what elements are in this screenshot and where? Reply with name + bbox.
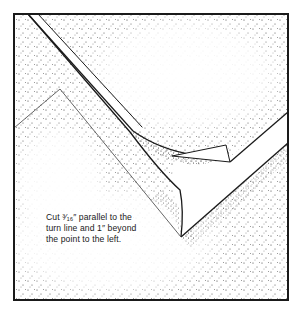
cutting-diagram bbox=[0, 0, 301, 310]
caption: Cut ³⁄₁₆″ parallel to the turn line and … bbox=[46, 212, 176, 245]
caption-line-3: the point to the left. bbox=[46, 234, 176, 245]
caption-line-1: Cut ³⁄₁₆″ parallel to the bbox=[46, 212, 176, 223]
caption-line-2: turn line and 1″ beyond bbox=[46, 223, 176, 234]
illustration: Cut ³⁄₁₆″ parallel to the turn line and … bbox=[0, 0, 301, 310]
